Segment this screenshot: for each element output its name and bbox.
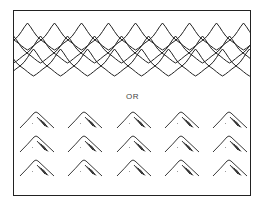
mountain-icon [68, 160, 102, 176]
arch-row [0, 36, 265, 63]
or-separator-label: OR [0, 92, 265, 101]
mountain-icon [213, 136, 247, 152]
mountain-icon [213, 112, 247, 128]
mountain-icon [165, 136, 199, 152]
mountain-icon [20, 160, 54, 176]
mountain-icon [213, 160, 247, 176]
mountain-grid [20, 112, 247, 176]
mountain-icon [117, 160, 151, 176]
mountain-icon [68, 136, 102, 152]
mountain-icon [117, 112, 151, 128]
pattern-artwork [0, 0, 265, 203]
mountain-icon [20, 112, 54, 128]
mountain-icon [165, 112, 199, 128]
mountain-icon [117, 136, 151, 152]
mountain-icon [20, 136, 54, 152]
mountain-icon [68, 112, 102, 128]
mountain-icon [165, 160, 199, 176]
scalloped-band [0, 23, 265, 76]
